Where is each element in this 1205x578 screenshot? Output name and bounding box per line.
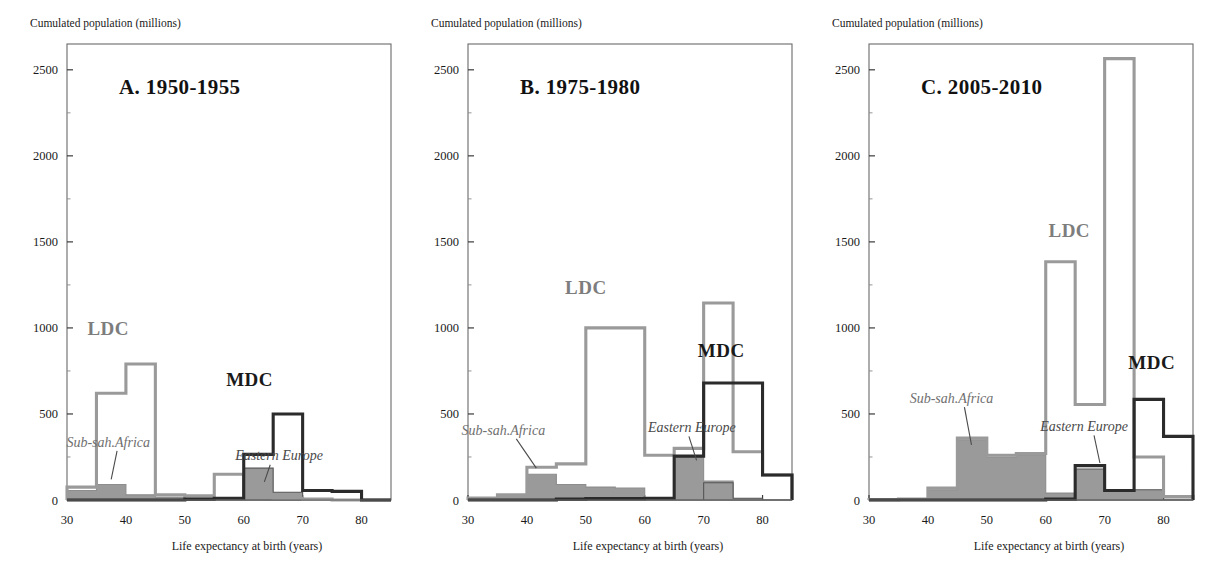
annotation-eastern-europe: Eastern Europe <box>647 420 736 435</box>
annotation-sub-saharan-africa: Sub-sah.Africa <box>66 435 150 450</box>
x-tick-label: 70 <box>1098 513 1111 527</box>
y-tick-label: 0 <box>52 494 58 508</box>
y-tick-label: 1500 <box>434 235 459 249</box>
series-label-mdc: MDC <box>698 340 745 361</box>
chart-svg-panel-a: Cumulated population (millions)050010001… <box>0 0 401 578</box>
x-tick-label: 40 <box>922 513 935 527</box>
x-tick-label: 80 <box>1157 513 1170 527</box>
x-tick-label: 50 <box>580 513 593 527</box>
y-tick-label: 500 <box>39 407 58 421</box>
x-tick-label: 70 <box>296 513 309 527</box>
y-tick-label: 1500 <box>33 235 58 249</box>
y-tick-label: 0 <box>453 494 459 508</box>
y-tick-label: 2500 <box>835 63 860 77</box>
y-tick-label: 500 <box>841 407 860 421</box>
y-axis-title: Cumulated population (millions) <box>832 17 983 30</box>
plot-frame <box>67 44 391 500</box>
series-step-mdc <box>468 383 792 500</box>
chart-svg-panel-c: Cumulated population (millions)050010001… <box>802 0 1203 578</box>
leader-eastern-europe <box>1094 435 1100 463</box>
y-axis-title: Cumulated population (millions) <box>30 17 181 30</box>
x-axis-title: Life expectancy at birth (years) <box>974 539 1125 553</box>
y-tick-label: 1000 <box>835 321 860 335</box>
x-tick-label: 40 <box>120 513 133 527</box>
panel-title: B. 1975-1980 <box>520 75 640 99</box>
plot-frame <box>869 44 1193 500</box>
chart-panel-panel-c: Cumulated population (millions)050010001… <box>802 0 1203 578</box>
annotation-eastern-europe: Eastern Europe <box>234 448 323 463</box>
series-step-ldc <box>468 303 792 500</box>
x-axis-title: Life expectancy at birth (years) <box>573 539 724 553</box>
series-step-ldc <box>869 59 1193 500</box>
annotation-sub-saharan-africa: Sub-sah.Africa <box>462 423 546 438</box>
x-tick-label: 80 <box>756 513 769 527</box>
y-tick-label: 1000 <box>33 321 58 335</box>
y-tick-label: 2500 <box>33 63 58 77</box>
chart-svg-panel-b: Cumulated population (millions)050010001… <box>401 0 802 578</box>
leader-sub-saharan-africa <box>111 451 117 479</box>
series-label-mdc: MDC <box>1128 352 1175 373</box>
x-tick-label: 30 <box>462 513 475 527</box>
y-tick-label: 1000 <box>434 321 459 335</box>
y-tick-label: 2000 <box>33 149 58 163</box>
leader-sub-saharan-africa <box>516 439 536 468</box>
x-tick-label: 80 <box>355 513 368 527</box>
x-tick-label: 50 <box>981 513 994 527</box>
x-tick-label: 70 <box>697 513 710 527</box>
x-tick-label: 30 <box>61 513 74 527</box>
y-axis-title: Cumulated population (millions) <box>431 17 582 30</box>
series-label-mdc: MDC <box>226 369 273 390</box>
y-tick-label: 1500 <box>835 235 860 249</box>
x-tick-label: 60 <box>237 513 250 527</box>
y-tick-label: 0 <box>854 494 860 508</box>
figure-three-panel-histograms: Cumulated population (millions)050010001… <box>0 0 1205 578</box>
y-tick-label: 500 <box>440 407 459 421</box>
annotation-eastern-europe: Eastern Europe <box>1039 419 1128 434</box>
chart-panel-panel-b: Cumulated population (millions)050010001… <box>401 0 802 578</box>
y-tick-label: 2500 <box>434 63 459 77</box>
x-tick-label: 50 <box>179 513 192 527</box>
annotation-sub-saharan-africa: Sub-sah.Africa <box>910 391 994 406</box>
series-label-ldc: LDC <box>565 277 607 298</box>
x-axis-title: Life expectancy at birth (years) <box>172 539 323 553</box>
y-tick-label: 2000 <box>835 149 860 163</box>
series-label-ldc: LDC <box>87 318 129 339</box>
x-tick-label: 60 <box>1039 513 1052 527</box>
x-tick-label: 60 <box>638 513 651 527</box>
panel-title: A. 1950-1955 <box>119 75 240 99</box>
panel-title: C. 2005-2010 <box>921 75 1042 99</box>
series-label-ldc: LDC <box>1048 220 1090 241</box>
y-tick-label: 2000 <box>434 149 459 163</box>
x-tick-label: 40 <box>521 513 534 527</box>
chart-panel-panel-a: Cumulated population (millions)050010001… <box>0 0 401 578</box>
x-tick-label: 30 <box>863 513 876 527</box>
